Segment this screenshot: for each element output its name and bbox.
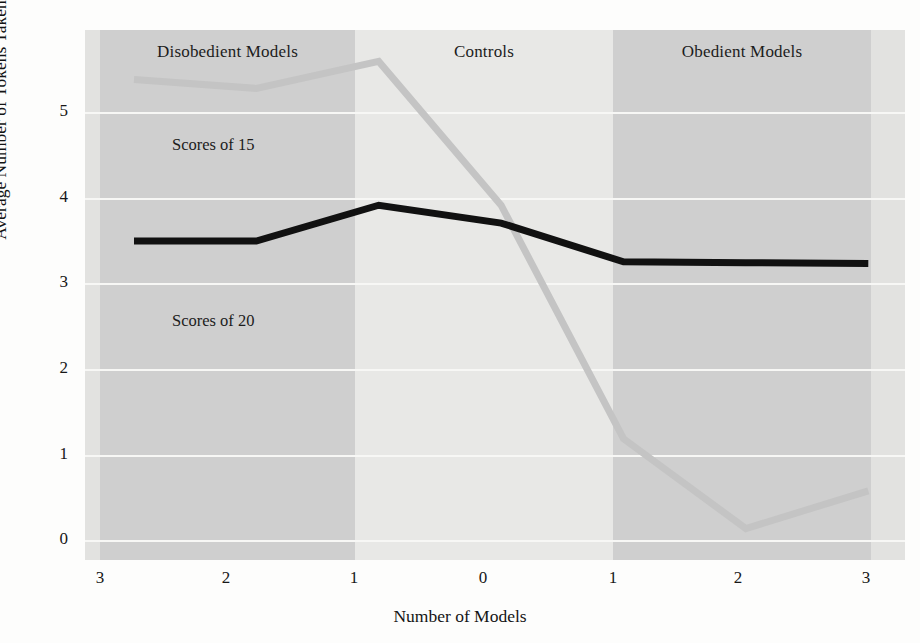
x-tick-label-4: 1 xyxy=(593,568,633,588)
y-tick-label-1: 1 xyxy=(28,444,68,464)
series-layer xyxy=(85,30,905,560)
y-tick-label-4: 4 xyxy=(28,187,68,207)
series-annotation-scores-of-20: Scores of 20 xyxy=(172,311,254,331)
band-caption-controls: Controls xyxy=(355,42,613,62)
chart-figure: Disobedient Models Controls Obedient Mod… xyxy=(0,0,920,643)
y-tick-label-5: 5 xyxy=(28,101,68,121)
y-axis-title: Average Number of Tokens Taken xyxy=(0,0,11,285)
series-annotation-scores-of-15: Scores of 15 xyxy=(172,135,254,155)
x-tick-label-2: 1 xyxy=(334,568,374,588)
series-line-scores-of-15 xyxy=(134,61,868,528)
x-tick-label-1: 2 xyxy=(206,568,246,588)
x-tick-label-5: 2 xyxy=(718,568,758,588)
y-tick-label-0: 0 xyxy=(28,529,68,549)
band-caption-obedient: Obedient Models xyxy=(613,42,871,62)
x-tick-label-0: 3 xyxy=(80,568,120,588)
y-tick-label-3: 3 xyxy=(28,272,68,292)
plot-area: Disobedient Models Controls Obedient Mod… xyxy=(85,30,905,560)
x-axis-title: Number of Models xyxy=(0,606,920,627)
y-tick-label-2: 2 xyxy=(28,358,68,378)
series-line-scores-of-20 xyxy=(134,205,868,263)
band-caption-disobedient: Disobedient Models xyxy=(100,42,355,62)
x-tick-label-3: 0 xyxy=(463,568,503,588)
x-tick-label-6: 3 xyxy=(846,568,886,588)
